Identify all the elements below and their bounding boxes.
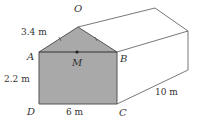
shed-prism-diagram: O 3.4 m A M B 2.2 m D 6 m C 10 m (0, 0, 198, 126)
label-slant: 3.4 m (21, 27, 47, 37)
label-C: C (119, 107, 127, 118)
label-M: M (71, 57, 83, 68)
roof-ridge (78, 8, 155, 27)
label-height: 2.2 m (4, 74, 30, 84)
label-depth: 10 m (155, 87, 178, 97)
label-width: 6 m (66, 107, 84, 117)
point-M (75, 50, 78, 53)
label-B: B (119, 53, 127, 64)
label-O: O (74, 3, 82, 14)
label-D: D (26, 106, 35, 117)
roof-eave-right (117, 31, 188, 52)
back-roof-slope (155, 8, 188, 31)
label-A: A (26, 51, 34, 62)
